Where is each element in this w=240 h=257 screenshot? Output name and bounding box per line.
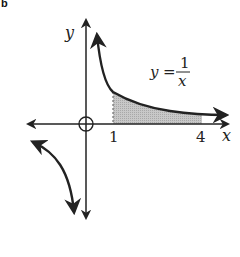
svg-text:x: x (178, 72, 187, 90)
svg-text:y: y (149, 63, 159, 81)
graph: y x 1 4 y = 1 x (0, 0, 240, 257)
curve-negative-branch (33, 142, 74, 212)
y-axis-label: y (64, 23, 75, 42)
svg-text:=: = (163, 63, 176, 81)
svg-text:1: 1 (180, 54, 190, 72)
equation-label: y = 1 x (149, 54, 190, 90)
x-axis-label: x (222, 126, 231, 145)
tick-label-1: 1 (109, 128, 119, 146)
tick-label-4: 4 (196, 128, 206, 146)
